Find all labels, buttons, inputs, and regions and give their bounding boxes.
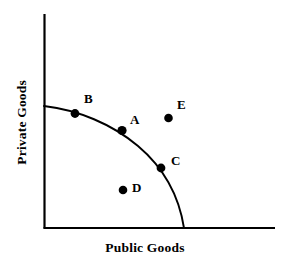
- data-point-e[interactable]: [164, 114, 173, 123]
- data-point-label-b: B: [84, 92, 93, 105]
- data-point-markers: [71, 109, 173, 194]
- data-point-label-e: E: [177, 98, 186, 111]
- x-axis-title: Public Goods: [0, 241, 290, 255]
- chart-axes: [44, 14, 276, 229]
- data-point-a[interactable]: [117, 126, 126, 135]
- data-point-c[interactable]: [157, 164, 166, 173]
- y-axis-title: Private Goods: [15, 121, 29, 165]
- ppf-chart-figure: B A E C D Public Goods Private Goods: [0, 0, 290, 271]
- data-point-label-a: A: [130, 113, 139, 126]
- data-point-d[interactable]: [119, 186, 128, 195]
- data-point-b[interactable]: [71, 109, 80, 118]
- ppf-plot-svg: [0, 0, 290, 271]
- data-point-label-d: D: [132, 181, 141, 194]
- data-point-label-c: C: [171, 154, 180, 167]
